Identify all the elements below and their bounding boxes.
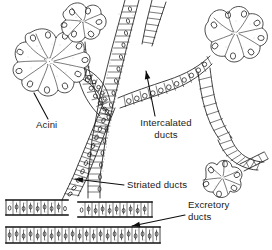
label-line-2: ducts <box>188 211 212 222</box>
intercalated-duct-right-branch <box>198 68 232 140</box>
annotation-striated-ducts: Striated ducts <box>75 177 187 190</box>
label-striated-ducts: Striated ducts <box>127 179 187 190</box>
annotation-excretory-ducts: Excretoryducts <box>132 199 230 227</box>
annotation-intercalated-ducts: Intercalatedducts <box>140 71 191 140</box>
label-intercalated-ducts: Intercalatedducts <box>140 117 191 140</box>
annotation-acini: Acini <box>34 93 57 130</box>
label-excretory-ducts: Excretoryducts <box>188 199 230 222</box>
label-line-1: Acini <box>36 119 57 130</box>
arrowhead-intercalated-ducts <box>145 71 150 79</box>
intercalated-duct-right-upper <box>118 56 212 108</box>
diagram-canvas: AciniIntercalatedductsStriated ductsExcr… <box>0 0 272 250</box>
acinus-right <box>205 7 267 63</box>
excretory-duct-upper-left <box>6 200 68 215</box>
acinus-top-center <box>61 3 106 42</box>
salivary-gland-diagram: AciniIntercalatedductsStriated ductsExcr… <box>0 0 272 250</box>
acinus-lower-right <box>202 136 268 198</box>
label-line-2: ducts <box>154 129 178 140</box>
label-acini: Acini <box>36 119 57 130</box>
label-line-1: Striated ducts <box>127 179 187 190</box>
excretory-duct-upper-right <box>78 202 152 217</box>
excretory-duct-lower <box>6 227 160 243</box>
duct-stub-top <box>142 0 166 46</box>
leader-line-acini <box>34 93 48 119</box>
label-line-1: Intercalated <box>140 117 191 128</box>
label-line-1: Excretory <box>188 199 230 210</box>
label-layer: AciniIntercalatedductsStriated ductsExcr… <box>34 71 230 227</box>
